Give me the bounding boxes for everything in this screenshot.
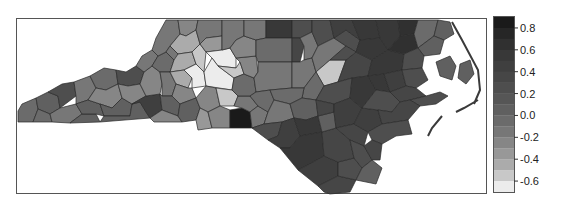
legend-tick-label: 0.8 — [520, 22, 535, 34]
legend-tick-label: 0.6 — [520, 44, 535, 56]
county — [256, 38, 292, 62]
legend-band — [494, 159, 514, 170]
legend-color-bands — [494, 17, 514, 192]
legend-ticks: 0.80.60.40.20.0-0.2-0.4-0.6 — [514, 22, 539, 187]
county — [254, 62, 292, 92]
legend-band — [494, 39, 514, 50]
legend-band — [494, 83, 514, 94]
legend-band — [494, 72, 514, 83]
legend-tick-label: 0.4 — [520, 66, 535, 78]
legend-band — [494, 126, 514, 137]
legend-band — [494, 148, 514, 159]
legend-band — [494, 61, 514, 72]
legend-band — [494, 137, 514, 148]
legend-band — [494, 170, 514, 181]
legend-band — [494, 17, 514, 28]
legend-tick-label: 0.0 — [520, 109, 535, 121]
legend-band — [494, 181, 514, 192]
legend-band — [494, 94, 514, 105]
choropleth-figure: 0.80.60.40.20.0-0.2-0.4-0.6 — [0, 0, 562, 206]
legend-band — [494, 105, 514, 116]
legend-tick-label: -0.6 — [520, 175, 539, 187]
legend-tick-label: -0.4 — [520, 153, 539, 165]
legend-tick-label: 0.2 — [520, 88, 535, 100]
color-legend: 0.80.60.40.20.0-0.2-0.4-0.6 — [494, 17, 539, 193]
county — [244, 20, 266, 40]
county — [266, 20, 292, 38]
legend-band — [494, 28, 514, 39]
legend-tick-label: -0.2 — [520, 131, 539, 143]
legend-band — [494, 50, 514, 61]
legend-band — [494, 115, 514, 126]
